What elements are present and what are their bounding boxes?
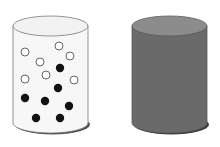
- filled-particle: [65, 102, 73, 110]
- open-particle: [66, 52, 74, 60]
- filled-particle: [32, 114, 40, 122]
- filled-particle: [56, 64, 64, 72]
- opaque-cylinder: [132, 16, 209, 135]
- open-particle: [42, 71, 50, 79]
- filled-particle: [41, 97, 49, 105]
- cylinder-top: [132, 16, 207, 36]
- open-particle: [21, 48, 29, 56]
- filled-particle: [21, 94, 29, 102]
- open-particle: [55, 42, 63, 50]
- filled-particle: [54, 84, 62, 92]
- filled-particle: [56, 114, 64, 122]
- open-particle: [70, 76, 78, 84]
- cylinders-diagram: [0, 0, 220, 147]
- transparent-cylinder: [13, 16, 90, 135]
- cylinder-body: [132, 26, 207, 133]
- open-particle: [36, 58, 44, 66]
- open-particle: [21, 75, 29, 83]
- cylinder-top: [13, 16, 88, 36]
